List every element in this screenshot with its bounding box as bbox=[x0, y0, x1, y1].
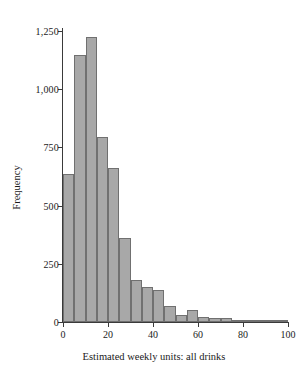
histogram-bar bbox=[277, 320, 288, 322]
histogram-bar bbox=[97, 137, 108, 322]
histogram-bar bbox=[131, 280, 142, 322]
x-axis-line bbox=[63, 322, 289, 323]
histogram-bar bbox=[63, 174, 74, 322]
x-tick-label: 20 bbox=[103, 329, 113, 340]
x-tick-mark bbox=[63, 322, 64, 327]
histogram-bar bbox=[187, 310, 198, 322]
histogram-bar bbox=[142, 287, 153, 322]
y-tick-label: 750 bbox=[43, 142, 59, 153]
y-tick-label: 0 bbox=[54, 317, 59, 328]
x-tick-mark bbox=[288, 322, 289, 327]
histogram-bar bbox=[232, 320, 243, 322]
x-tick-label: 40 bbox=[148, 329, 158, 340]
x-tick-mark bbox=[243, 322, 244, 327]
histogram-bar bbox=[221, 318, 232, 322]
histogram-bar bbox=[243, 320, 254, 322]
x-axis-title: Estimated weekly units: all drinks bbox=[0, 351, 308, 362]
x-tick-label: 80 bbox=[238, 329, 248, 340]
histogram-bar bbox=[119, 238, 130, 322]
y-axis-title: Frequency bbox=[8, 0, 24, 374]
plot-area: 02505007501,0001,250 020406080100 bbox=[63, 31, 288, 322]
y-tick-label: 1,250 bbox=[36, 26, 60, 37]
x-tick-label: 0 bbox=[61, 329, 66, 340]
x-tick-label: 100 bbox=[281, 329, 296, 340]
x-tick-label: 60 bbox=[193, 329, 203, 340]
histogram-bar bbox=[254, 320, 265, 322]
x-tick-mark bbox=[153, 322, 154, 327]
x-tick-mark bbox=[108, 322, 109, 327]
histogram-bar bbox=[153, 290, 164, 322]
histogram-figure: Frequency 02505007501,0001,250 020406080… bbox=[0, 0, 308, 374]
y-tick-label: 250 bbox=[43, 258, 59, 269]
y-tick-label: 500 bbox=[43, 200, 59, 211]
histogram-bar bbox=[209, 318, 220, 322]
histogram-bar bbox=[108, 168, 119, 322]
y-axis-title-text: Frequency bbox=[11, 165, 22, 209]
y-tick-label: 1,000 bbox=[36, 84, 60, 95]
histogram-bar bbox=[74, 55, 85, 322]
histogram-bar bbox=[266, 320, 277, 322]
histogram-bar bbox=[164, 306, 175, 322]
histogram-bar bbox=[86, 37, 97, 322]
x-tick-mark bbox=[198, 322, 199, 327]
histogram-bar bbox=[198, 317, 209, 322]
histogram-bar bbox=[176, 315, 187, 322]
